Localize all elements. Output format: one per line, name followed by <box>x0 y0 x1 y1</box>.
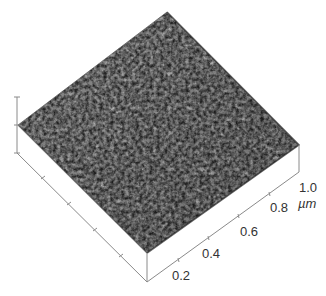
x-tick-label-0.2: 0.2 <box>172 269 190 282</box>
afm-surface-figure: 0.2 0.4 0.6 0.8 1.0 µm <box>0 0 326 296</box>
x-tick-label-0.4: 0.4 <box>202 247 220 260</box>
surface-texture-dark <box>18 12 299 253</box>
x-tick-label-1.0: 1.0 <box>299 181 317 194</box>
x-tick-label-0.8: 0.8 <box>270 201 288 214</box>
x-tick-label-0.6: 0.6 <box>240 225 258 238</box>
afm-surface-plot <box>0 0 326 296</box>
z-axis <box>14 97 20 153</box>
x-axis-unit: µm <box>298 197 316 210</box>
